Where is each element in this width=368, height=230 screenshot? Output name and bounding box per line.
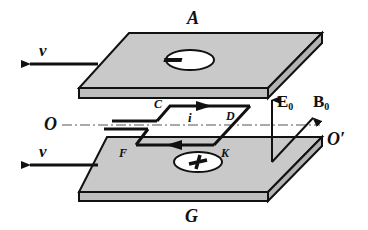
positive-charge-icon [174,152,222,172]
magnetic-field-label: B0 [313,92,329,112]
axis-end-label: O′ [327,129,345,149]
loop-corner-k: K [220,146,230,160]
current-arrow-top [196,101,212,111]
loop-corner-f: F [118,146,127,160]
velocity-label-top: v [39,41,47,60]
top-plate-label: A [186,8,199,28]
bottom-plate-label: G [185,206,198,226]
negative-charge-icon [163,50,214,70]
axis-start-label: O [44,114,57,134]
diagram-canvas: A v G v O O′ C D K F i E0 B0 [0,0,368,230]
current-label: i [188,110,192,125]
loop-corner-d: D [225,109,235,123]
velocity-label-bottom: v [39,142,47,161]
electric-field-label: E0 [277,92,293,112]
loop-corner-c: C [154,97,163,111]
